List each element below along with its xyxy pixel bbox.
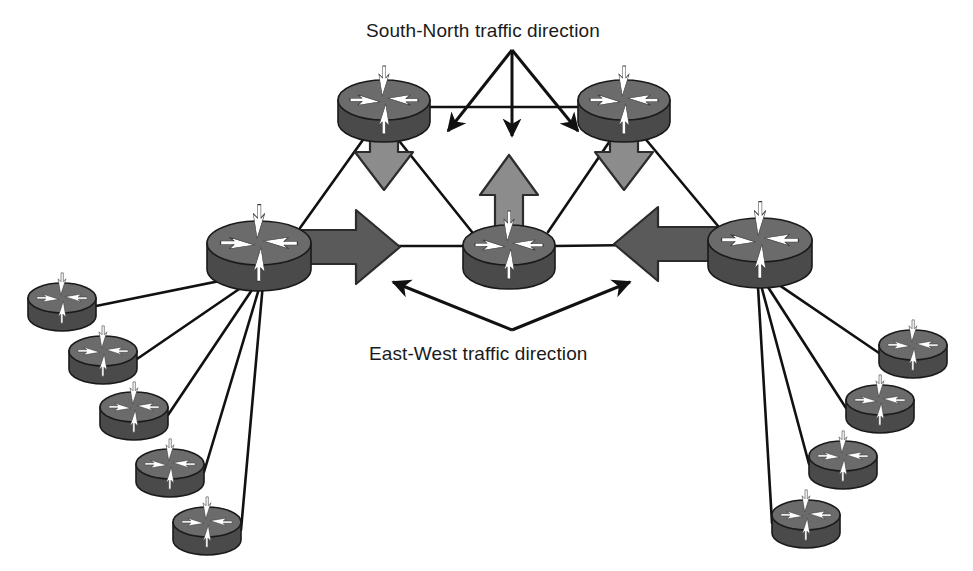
east-west-arrow-fan-ray-1 [393,282,512,330]
east-west-arrow-fan-ray-2 [512,282,630,330]
routers-layer [28,66,947,555]
diagram-canvas [0,0,973,571]
link-midleft-leaf-l3 [168,272,264,415]
right-aggregation-router [708,202,812,288]
leaf-router-left-5 [173,497,241,555]
south-north-arrow-fan-ray-3 [512,50,578,131]
center-aggregation-router [463,211,555,289]
network-topology-figure: South-North traffic direction East-West … [0,0,973,571]
leaf-router-left-3 [100,382,168,440]
link-midright-leaf-r2 [757,270,846,408]
left-aggregation-router [207,205,311,291]
link-midcenter-topright [548,132,616,232]
south-north-arrow-fan-ray-1 [448,50,512,131]
leaf-router-right-4 [772,490,840,548]
east-west-traffic-label: East-West traffic direction [369,343,587,365]
leaf-router-left-2 [69,326,137,384]
south-north-traffic-label: South-North traffic direction [366,20,600,42]
leaf-router-right-2 [846,375,914,433]
south-north-arrow-fan [448,50,578,136]
top-right-spine-router [578,66,670,142]
leaf-router-left-1 [28,273,96,331]
leaf-router-right-3 [809,431,877,489]
link-midright-topright [638,130,718,226]
links-layer [96,107,879,530]
link-midright-leaf-r4 [757,270,772,523]
leaf-router-left-4 [136,439,204,497]
leaf-router-right-1 [879,320,947,378]
top-left-spine-router [338,66,430,142]
link-midcenter-topleft [392,132,472,232]
